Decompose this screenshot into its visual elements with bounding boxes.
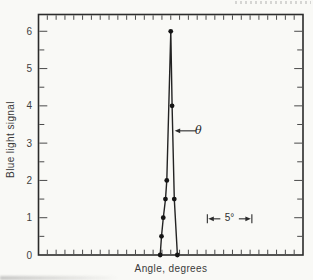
data-point [159,234,164,239]
data-point [158,253,163,258]
data-point [170,103,175,108]
scale-bar-left-arrow-head [208,216,214,221]
y-tick-label: 4 [26,100,32,111]
scale-bar-label: 5° [219,212,240,223]
y-tick-label: 2 [26,175,32,186]
data-point [161,215,166,220]
theta-arrow-head [175,128,181,133]
scanned-figure: 0123456 Blue light signal Angle, degrees… [0,0,313,280]
scale-bar-right-arrow-head [245,216,251,221]
y-tick-label: 0 [26,250,32,261]
diffraction-peak-chart: 0123456 [0,0,313,280]
theta-annotation-label: θ [195,124,211,137]
data-point [164,178,169,183]
data-point [172,197,177,202]
scan-shadow-artifact [0,276,120,280]
data-point [168,29,173,34]
y-tick-label: 3 [26,138,32,149]
data-point [163,197,168,202]
y-axis-label: Blue light signal [5,95,16,185]
data-point [175,253,180,258]
y-tick-label: 1 [26,212,32,223]
y-tick-label: 6 [26,26,32,37]
y-tick-label: 5 [26,63,32,74]
x-axis-label: Angle, degrees [98,263,244,274]
signal-curve [160,31,177,255]
